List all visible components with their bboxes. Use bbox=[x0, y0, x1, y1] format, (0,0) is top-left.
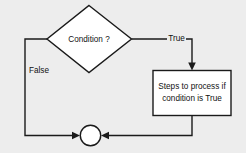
flowchart-diagram: True False Condition ? Steps to process … bbox=[0, 0, 246, 153]
true-branch-arrowhead bbox=[188, 63, 196, 71]
decision-label: Condition ? bbox=[68, 35, 110, 44]
false-branch-arrowhead bbox=[72, 132, 80, 140]
node-process[interactable]: Steps to process if condition is True bbox=[153, 71, 231, 116]
process-label-line1: Steps to process if bbox=[158, 82, 226, 91]
merge-circle-shape bbox=[80, 125, 100, 145]
process-rectangle-shape bbox=[153, 71, 231, 116]
process-to-merge-line bbox=[107, 116, 192, 136]
edge-label-true: True bbox=[168, 34, 185, 43]
process-label-line2: condition is True bbox=[162, 94, 222, 103]
edge-process-to-merge bbox=[101, 116, 192, 140]
flowchart-canvas: True False Condition ? Steps to process … bbox=[0, 0, 246, 153]
process-to-merge-arrowhead bbox=[101, 132, 109, 140]
edge-label-false: False bbox=[29, 66, 49, 75]
edge-true-branch: True bbox=[132, 34, 196, 70]
node-merge[interactable] bbox=[80, 125, 100, 145]
node-decision[interactable]: Condition ? bbox=[47, 6, 132, 73]
